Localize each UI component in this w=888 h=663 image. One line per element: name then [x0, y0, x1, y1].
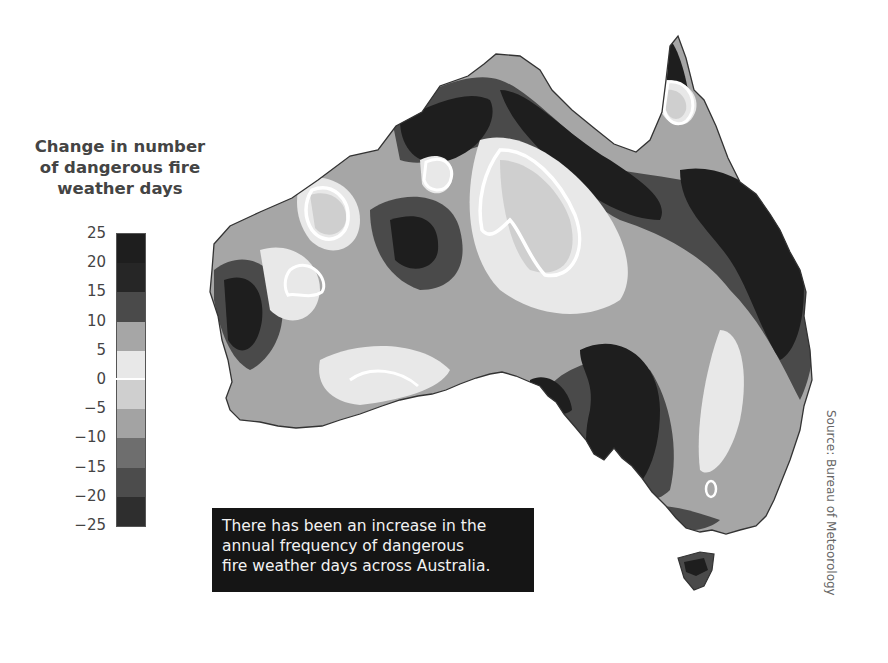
legend-band [117, 292, 145, 321]
legend-tick-label: 5 [58, 341, 106, 359]
zero-marker [116, 378, 145, 380]
caption-line: annual frequency of dangerous [222, 536, 524, 556]
legend-tick-label: −15 [58, 458, 106, 476]
caption-box: There has been an increase in the annual… [212, 508, 534, 592]
legend-band [117, 438, 145, 467]
source-credit: Source: Bureau of Meteorology [818, 410, 838, 610]
legend-band [117, 468, 145, 497]
legend-band [117, 409, 145, 438]
legend-band [117, 351, 145, 380]
legend-title: Change in number of dangerous fire weath… [22, 136, 218, 199]
legend-tick-label: −25 [58, 516, 106, 534]
legend-title-line: of dangerous fire [22, 157, 218, 178]
legend-tick-label: −5 [58, 399, 106, 417]
legend-colorbar [116, 233, 146, 527]
legend-band [117, 380, 145, 409]
legend-band [117, 322, 145, 351]
legend-tick-label: 0 [58, 370, 106, 388]
legend-tick-label: 20 [58, 253, 106, 271]
legend-band [117, 234, 145, 263]
legend-tick-label: −10 [58, 428, 106, 446]
caption-line: There has been an increase in the [222, 516, 524, 536]
legend-band [117, 263, 145, 292]
legend-title-line: Change in number [22, 136, 218, 157]
legend-title-line: weather days [22, 178, 218, 199]
legend-tick-label: −20 [58, 487, 106, 505]
caption-line: fire weather days across Australia. [222, 556, 524, 576]
legend-tick-label: 10 [58, 312, 106, 330]
legend-tick-label: 15 [58, 282, 106, 300]
legend-band [117, 497, 145, 526]
legend-tick-label: 25 [58, 224, 106, 242]
